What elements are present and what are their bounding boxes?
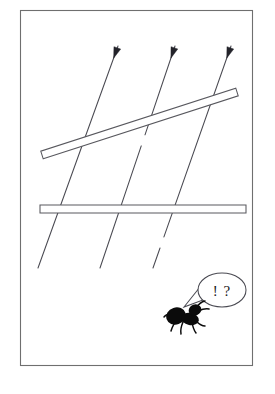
- speech-bubble-text: ! ?: [213, 283, 231, 299]
- bar-horizontal: [40, 205, 246, 213]
- illustration-figure: ! ?: [0, 0, 275, 394]
- illustration-border: [21, 11, 253, 366]
- illustration-canvas: ! ?: [0, 0, 275, 394]
